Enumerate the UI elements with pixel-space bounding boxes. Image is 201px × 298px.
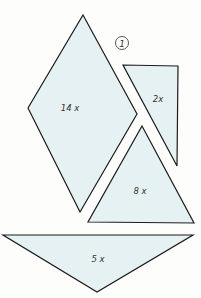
- middle-triangle-label: 8 x: [133, 186, 147, 196]
- diamond-label: 14 x: [61, 103, 81, 113]
- bottom-triangle-label: 5 x: [91, 254, 105, 264]
- tangram-pieces-diagram: 1 14 x 2x 8 x 5 x: [0, 0, 201, 298]
- marker-number: 1: [119, 39, 125, 49]
- right-triangle-label: 2x: [153, 94, 164, 104]
